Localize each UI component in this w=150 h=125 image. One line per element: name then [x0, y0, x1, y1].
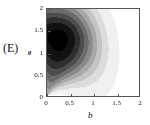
x-tick-mark — [118, 94, 119, 97]
x-tick-label: 0.5 — [65, 99, 74, 107]
x-tick-label: 1.5 — [112, 99, 121, 107]
contour-canvas — [47, 9, 139, 96]
y-tick-label: 1.5 — [29, 26, 43, 34]
x-tick-mark — [94, 94, 95, 97]
x-tick-label: 1 — [91, 99, 95, 107]
contour-density-layer — [47, 9, 139, 96]
y-tick-mark — [48, 54, 51, 55]
y-tick-label: 0.5 — [29, 71, 43, 79]
figure-panel: (E) g b 00.511.52 00.511.52 — [0, 0, 150, 125]
x-tick-label: 2 — [138, 99, 142, 107]
y-tick-mark — [48, 76, 51, 77]
y-tick-mark — [48, 31, 51, 32]
y-tick-label: 0 — [29, 93, 43, 101]
x-tick-mark — [71, 94, 72, 97]
y-tick-label: 1 — [29, 49, 43, 57]
contour-plot-area — [46, 8, 140, 97]
x-axis-label: b — [88, 110, 93, 120]
panel-label: (E) — [3, 41, 18, 56]
x-tick-label: 0 — [44, 99, 48, 107]
y-tick-label: 2 — [29, 4, 43, 12]
y-tick-mark — [48, 9, 51, 10]
x-tick-mark — [47, 94, 48, 97]
